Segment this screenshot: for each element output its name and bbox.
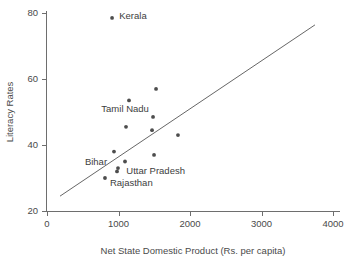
point-annotation: Tamil Nadu bbox=[101, 103, 149, 114]
plot-canvas: 20406080 01000200030004000 Literacy Rate… bbox=[0, 0, 351, 263]
data-point bbox=[127, 99, 131, 103]
data-point bbox=[116, 166, 120, 170]
y-tick-label: 60 bbox=[27, 73, 38, 84]
y-tick-label: 40 bbox=[27, 139, 38, 150]
data-points-group bbox=[103, 16, 180, 180]
data-point bbox=[152, 153, 156, 157]
point-annotations-group: KeralaTamil NaduBiharUttar PradeshRajast… bbox=[85, 10, 185, 189]
regression-line bbox=[60, 25, 315, 196]
point-annotation: Uttar Pradesh bbox=[126, 165, 185, 176]
x-tick-label: 1000 bbox=[108, 218, 129, 229]
x-tick-label: 3000 bbox=[251, 218, 272, 229]
point-annotation: Bihar bbox=[85, 156, 107, 167]
data-point bbox=[151, 115, 155, 119]
point-annotation: Rajasthan bbox=[110, 177, 153, 188]
data-point bbox=[123, 160, 127, 164]
data-point bbox=[176, 133, 180, 137]
x-tick-label: 0 bbox=[44, 218, 49, 229]
x-tick-label: 4000 bbox=[322, 218, 343, 229]
y-axis-ticks: 20406080 bbox=[27, 7, 46, 216]
data-point bbox=[110, 16, 114, 20]
data-point bbox=[154, 87, 158, 91]
y-axis-title: Literacy Rates bbox=[4, 81, 15, 142]
data-point bbox=[124, 125, 128, 129]
x-tick-label: 2000 bbox=[179, 218, 200, 229]
point-annotation: Kerala bbox=[119, 10, 147, 21]
data-point bbox=[150, 128, 154, 132]
data-point bbox=[103, 176, 107, 180]
y-tick-label: 80 bbox=[27, 7, 38, 18]
scatter-chart: 20406080 01000200030004000 Literacy Rate… bbox=[0, 0, 351, 263]
x-axis-ticks: 01000200030004000 bbox=[44, 212, 343, 230]
data-point bbox=[112, 150, 116, 154]
data-point bbox=[115, 170, 119, 174]
y-tick-label: 20 bbox=[27, 205, 38, 216]
x-axis-title: Net State Domestic Product (Rs. per capi… bbox=[101, 245, 286, 256]
